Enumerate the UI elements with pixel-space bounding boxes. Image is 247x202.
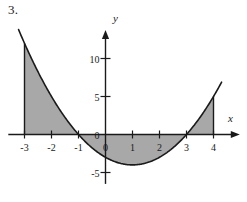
x-tick-label: 2 [157, 142, 162, 153]
x-tick-label: 4 [211, 142, 216, 153]
x-tick-label: 1 [130, 142, 135, 153]
x-tick-label: 3 [184, 142, 189, 153]
y-axis-arrow [102, 30, 109, 39]
x-axis-arrow [231, 131, 240, 138]
x-tick-label: -2 [47, 142, 55, 153]
y-tick-label: -5 [80, 167, 100, 178]
plot-area [0, 0, 247, 202]
shaded-region-left [25, 43, 79, 134]
y-tick-label: 10 [80, 53, 100, 64]
figure-container: 3. y x -3-2-101234 -50510 [0, 0, 247, 202]
y-tick-label: 5 [80, 91, 100, 102]
x-tick-label: -1 [74, 142, 82, 153]
y-axis-label: y [113, 12, 118, 24]
y-tick-label: 0 [80, 129, 100, 140]
x-tick-label: 0 [103, 142, 108, 153]
x-tick-label: -3 [20, 142, 28, 153]
x-axis-label: x [228, 112, 233, 124]
